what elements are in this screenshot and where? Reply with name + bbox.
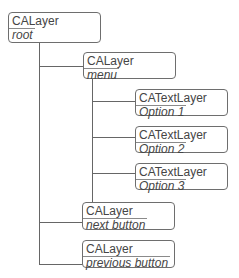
node-class-label: CALayer	[87, 54, 172, 68]
root-trunk-line	[39, 42, 40, 265]
layer-tree-diagram: CALayer root CALayer menu CATextLayer Op…	[0, 0, 239, 278]
node-previous-button: CALayer previous button	[82, 240, 175, 268]
node-class-label: CATextLayer	[139, 165, 224, 179]
node-name-label: Option 2	[136, 142, 186, 156]
node-option-1: CATextLayer Option 1	[135, 89, 228, 116]
node-class-label: CALayer	[86, 204, 171, 218]
node-class-label: CATextLayer	[139, 128, 224, 142]
node-class-label: CALayer	[12, 14, 97, 28]
node-name-label: next button	[83, 218, 147, 232]
node-root: CALayer root	[8, 12, 101, 43]
root-to-menu-line	[39, 66, 83, 67]
node-name-label: menu	[84, 68, 119, 82]
node-option-3: CATextLayer Option 3	[135, 163, 228, 190]
node-name-label: Option 3	[136, 179, 186, 193]
node-name-label: root	[9, 28, 35, 42]
menu-to-opt2-line	[92, 137, 136, 138]
node-menu: CALayer menu	[83, 52, 176, 79]
node-name-label: Option 1	[136, 105, 186, 119]
root-to-next-line	[39, 222, 83, 223]
node-class-label: CATextLayer	[139, 91, 224, 105]
menu-to-opt3-line	[92, 173, 136, 174]
menu-to-opt1-line	[92, 101, 136, 102]
root-to-prev-line	[39, 264, 83, 265]
node-class-label: CALayer	[86, 242, 171, 256]
node-next-button: CALayer next button	[82, 202, 175, 230]
node-option-2: CATextLayer Option 2	[135, 126, 228, 153]
node-name-label: previous button	[83, 256, 170, 270]
